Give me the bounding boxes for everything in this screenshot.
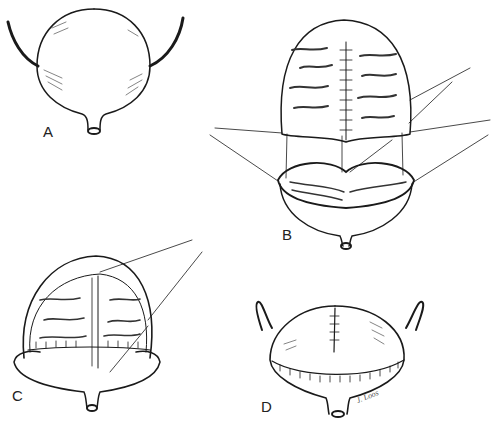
panel-a-bladder (8, 9, 183, 134)
panel-label-c: C (12, 387, 23, 404)
panel-d-completed (256, 302, 423, 417)
panel-label-d: D (261, 398, 272, 415)
panel-label-a: A (43, 123, 53, 140)
panel-label-b: B (282, 226, 292, 243)
illustration-canvas (0, 0, 492, 428)
panel-b-patch-and-bladder (210, 20, 490, 249)
panel-c-suturing (14, 240, 202, 411)
